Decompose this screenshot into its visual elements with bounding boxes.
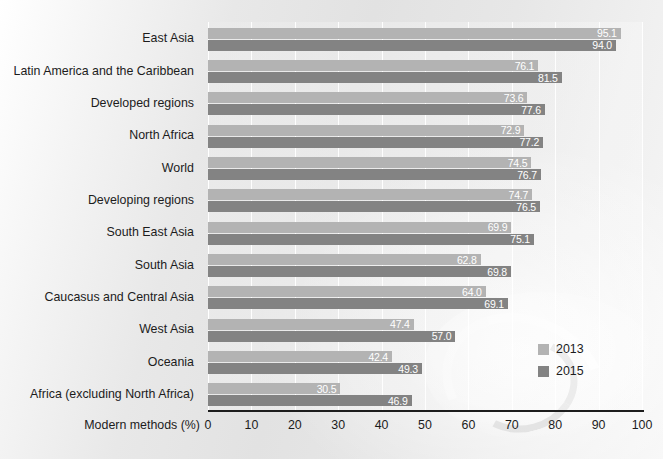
x-tick-100: 100: [632, 418, 653, 432]
bar[interactable]: 74.7: [208, 189, 532, 200]
x-tick-80: 80: [548, 418, 562, 432]
category-label: Developing regions: [88, 194, 194, 207]
legend-item-2013[interactable]: 2013: [538, 340, 584, 359]
bar-value-label: 73.6: [504, 92, 524, 104]
bar-value-label: 64.0: [462, 286, 482, 298]
bar[interactable]: 75.1: [208, 234, 534, 245]
bar-value-label: 76.5: [516, 201, 536, 213]
bar[interactable]: 49.3: [208, 363, 422, 374]
bar[interactable]: 47.4: [208, 319, 414, 330]
legend-item-2015[interactable]: 2015: [538, 362, 584, 381]
bar[interactable]: 46.9: [208, 395, 412, 406]
bar[interactable]: 76.5: [208, 201, 540, 212]
bar-value-label: 42.4: [368, 351, 388, 363]
x-tick-90: 90: [592, 418, 606, 432]
bar-value-label: 69.9: [488, 221, 508, 233]
x-tick-40: 40: [375, 418, 389, 432]
bar-value-label: 57.0: [432, 330, 452, 342]
bar-value-label: 75.1: [510, 233, 530, 245]
bar-value-label: 81.5: [538, 72, 558, 84]
bar[interactable]: 62.8: [208, 254, 481, 265]
bar[interactable]: 64.0: [208, 286, 486, 297]
legend: 2013 2015: [538, 340, 584, 384]
bar[interactable]: 72.9: [208, 125, 524, 136]
category-label: North Africa: [129, 129, 194, 142]
legend-label-2013: 2013: [556, 343, 584, 356]
bar[interactable]: 69.9: [208, 222, 511, 233]
bar-value-label: 74.7: [509, 189, 529, 201]
bar[interactable]: 74.5: [208, 157, 531, 168]
bar[interactable]: 76.1: [208, 60, 538, 71]
bar-value-label: 72.9: [501, 124, 521, 136]
category-label: Developed regions: [91, 97, 194, 110]
x-tick-50: 50: [418, 418, 432, 432]
x-tick-0: 0: [205, 418, 212, 432]
bar[interactable]: 77.6: [208, 104, 545, 115]
x-axis-title: Modern methods (%): [84, 418, 200, 432]
category-label: South East Asia: [107, 226, 194, 239]
bar-value-label: 95.1: [597, 27, 617, 39]
legend-label-2015: 2015: [556, 365, 584, 378]
bar-value-label: 46.9: [388, 395, 408, 407]
bar[interactable]: 76.7: [208, 169, 541, 180]
x-tick-10: 10: [244, 418, 258, 432]
x-axis-line: [208, 410, 644, 412]
legend-swatch-2013-icon: [538, 344, 549, 355]
bar-value-label: 47.4: [390, 318, 410, 330]
category-label: Caucasus and Central Asia: [45, 291, 194, 304]
bar[interactable]: 42.4: [208, 351, 392, 362]
x-tick-60: 60: [461, 418, 475, 432]
bar[interactable]: 69.8: [208, 266, 511, 277]
bar-value-label: 74.5: [508, 157, 528, 169]
x-tick-20: 20: [288, 418, 302, 432]
bar[interactable]: 95.1: [208, 28, 621, 39]
bar[interactable]: 69.1: [208, 298, 508, 309]
gridline-100: [642, 22, 643, 410]
category-label: World: [162, 162, 194, 175]
bar[interactable]: 77.2: [208, 137, 543, 148]
bar-value-label: 30.5: [317, 383, 337, 395]
chart-container: 95.194.076.181.573.677.672.977.274.576.7…: [0, 0, 663, 459]
category-label: West Asia: [139, 323, 194, 336]
bar-value-label: 62.8: [457, 254, 477, 266]
bar[interactable]: 94.0: [208, 40, 616, 51]
bar[interactable]: 73.6: [208, 92, 527, 103]
bar-value-label: 69.1: [484, 298, 504, 310]
x-tick-70: 70: [505, 418, 519, 432]
gridline-90: [599, 22, 600, 410]
bar[interactable]: 81.5: [208, 72, 562, 83]
x-axis-title-wrap: Modern methods (%): [60, 418, 200, 438]
bar-value-label: 76.1: [515, 60, 535, 72]
bar[interactable]: 57.0: [208, 331, 455, 342]
bar-value-label: 77.6: [521, 104, 541, 116]
category-axis-labels: East AsiaLatin America and the Caribbean…: [0, 22, 200, 410]
category-label: Oceania: [148, 356, 194, 369]
x-tick-30: 30: [331, 418, 345, 432]
bar-value-label: 69.8: [487, 266, 507, 278]
bar-value-label: 49.3: [398, 363, 418, 375]
category-label: Africa (excluding North Africa): [30, 388, 194, 401]
bar-value-label: 77.2: [519, 136, 539, 148]
bar-value-label: 94.0: [592, 39, 612, 51]
cropped-title-sliver: [163, 0, 293, 9]
category-label: South Asia: [135, 259, 194, 272]
category-label: East Asia: [142, 32, 194, 45]
bar-value-label: 76.7: [517, 169, 537, 181]
legend-swatch-2015-icon: [538, 366, 549, 377]
category-label: Latin America and the Caribbean: [14, 65, 194, 78]
bar[interactable]: 30.5: [208, 383, 340, 394]
